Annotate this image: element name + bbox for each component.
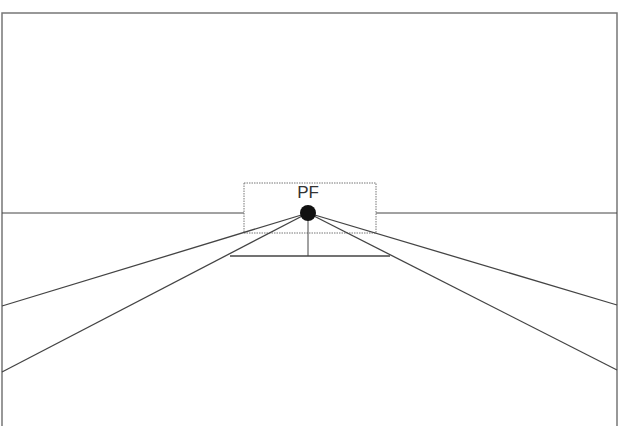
vanishing-point-label: PF (297, 183, 319, 202)
perspective-diagram: PF (0, 0, 621, 426)
vanishing-point-dot (300, 205, 316, 221)
